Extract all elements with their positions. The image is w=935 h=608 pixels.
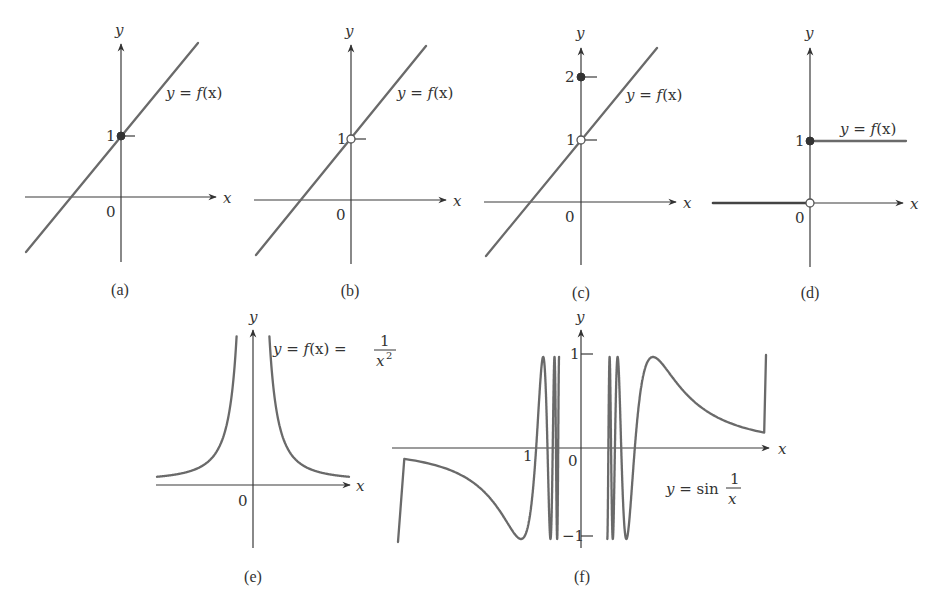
function-label: y = sin [665,480,719,498]
caption-a: (a) [111,281,129,299]
y-tick-label-neg1: −1 [562,527,584,545]
panel-b: y x 0 1 y = f(x) (b) [254,22,462,300]
y-axis-label: y [575,24,585,42]
y-tick-label-1: 1 [795,132,805,150]
panel-c: y x 0 1 2 y = f(x) (c) [484,24,692,302]
function-label: y = f(x) [839,120,896,138]
caption-c: (c) [572,284,590,302]
panel-a: y x 0 1 y = f(x) (a) [25,21,232,299]
caption-d: (d) [801,284,820,302]
inverse-square-left-branch [157,336,237,477]
x-axis-label: x [778,440,787,458]
sin-inverse-left-branch [398,357,559,542]
open-point-0-0 [806,199,814,207]
panel-e: y x 0 y = f(x) = 1 x 2 (e) [156,308,396,586]
y-tick-label-1: 1 [337,130,347,148]
origin-label: 0 [795,209,805,227]
fraction-denominator: x [728,490,737,508]
y-axis-label: y [344,22,354,40]
fraction-denominator: x [376,352,385,370]
function-label: y = f(x) [625,86,682,104]
sin-inverse-right-branch [607,355,766,539]
y-tick-label-1: 1 [106,127,116,145]
caption-f: (f) [574,568,590,586]
x-tick-label-1: 1 [523,447,533,465]
filled-point-0-2 [577,73,585,81]
function-label: y = f(x) [165,84,222,102]
y-tick-label-1: 1 [570,345,580,363]
y-axis-label: y [804,24,814,42]
filled-point-0-1 [806,137,814,145]
fraction-numerator: 1 [730,470,740,488]
x-axis-label: x [223,189,232,207]
fraction-numerator: 1 [380,332,390,350]
origin-label: 0 [336,206,346,224]
y-axis-label: y [575,308,585,326]
origin-label: 0 [568,452,578,470]
caption-e: (e) [244,568,262,586]
x-axis-label: x [356,477,365,495]
y-axis-label: y [248,308,258,326]
x-axis-label: x [910,195,919,213]
y-tick-label-1: 1 [566,131,576,149]
origin-label: 0 [238,492,248,510]
origin-label: 0 [106,203,116,221]
y-axis-label: y [114,21,124,39]
x-axis-label: x [683,194,692,212]
function-label: y = f(x) [396,84,453,102]
panel-f: y x 0 1 1 −1 y = sin 1 x (f) [392,308,787,586]
fraction-exponent: 2 [386,350,392,361]
function-label: y = f(x) = [272,340,347,358]
panel-d: y x 0 1 y = f(x) (d) [713,24,919,302]
origin-label: 0 [565,208,575,226]
x-axis-label: x [453,192,462,210]
limits-figure: y x 0 1 y = f(x) (a) y x 0 1 y = f(x) (b… [0,0,935,608]
open-point-0-1 [577,136,585,144]
y-tick-label-2: 2 [565,68,575,86]
open-point-0-1 [347,135,355,143]
caption-b: (b) [341,282,360,300]
filled-point-0-1 [117,132,125,140]
